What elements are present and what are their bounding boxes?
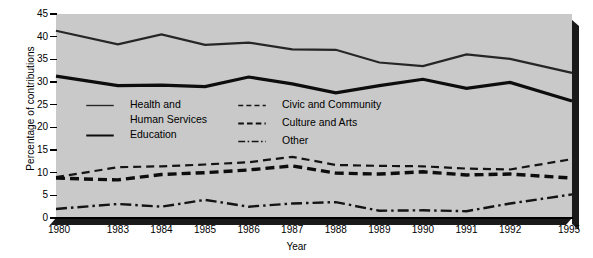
legend-item: Health andHuman Services bbox=[78, 97, 218, 114]
chart-legend: Health andHuman ServicesEducation Civic … bbox=[78, 97, 408, 149]
legend-swatch bbox=[78, 103, 122, 108]
legend-swatch bbox=[230, 139, 274, 144]
legend-swatch bbox=[78, 133, 122, 138]
legend-item: Other bbox=[230, 133, 420, 150]
legend-label: Health and bbox=[130, 97, 181, 112]
x-axis-title: Year bbox=[0, 241, 593, 252]
legend-label: Education bbox=[130, 127, 177, 142]
legend-label-line2: Human Services bbox=[130, 112, 207, 127]
legend-label: Other bbox=[282, 133, 308, 148]
legend-item: Culture and Arts bbox=[230, 115, 420, 132]
legend-swatch bbox=[230, 121, 274, 126]
chart-figure: 051015202530354045 198019831984198519861… bbox=[0, 0, 593, 258]
legend-swatch bbox=[230, 103, 274, 108]
legend-label: Culture and Arts bbox=[282, 115, 357, 130]
y-axis-title: Percentage of contributions bbox=[25, 9, 36, 209]
legend-item: Civic and Community bbox=[230, 97, 420, 114]
legend-label: Civic and Community bbox=[282, 97, 381, 112]
series-line bbox=[56, 31, 572, 73]
series-line bbox=[56, 194, 572, 211]
legend-item: Education bbox=[78, 127, 218, 144]
